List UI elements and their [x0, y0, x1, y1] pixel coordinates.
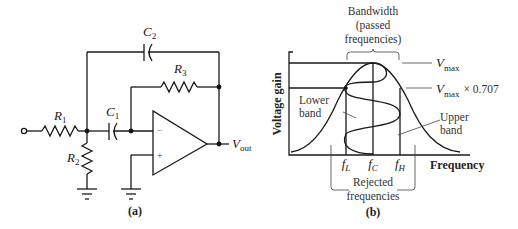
inverting-input-sign: −: [157, 125, 163, 136]
lower-band-leader: [343, 112, 356, 118]
rejected-label-1: Rejected: [353, 176, 393, 189]
output-node: [217, 142, 222, 147]
bandwidth-label-1: Bandwidth: [348, 5, 399, 17]
circuit-diagram: − + R1 R2 R3 C1 C2 Vout (a): [21, 24, 252, 218]
rejected-label-2: frequencies: [347, 190, 401, 203]
ground-icon: [77, 189, 97, 199]
r3-label: R3: [173, 61, 187, 78]
vmax707-label: Vmax× 0.707: [436, 81, 499, 99]
r1-label: R1: [53, 108, 66, 125]
junction-node: [217, 85, 222, 90]
y-axis-label: Voltage gain: [270, 72, 284, 136]
resistor-r2: [82, 143, 92, 174]
vout-label: Vout: [232, 136, 252, 153]
caption-b: (b): [366, 205, 381, 219]
frequency-response-graph: Bandwidth (passed frequencies) Vmax Vmax…: [270, 5, 499, 219]
upper-band-label-2: band: [440, 124, 463, 136]
c1-label: C1: [106, 104, 119, 121]
bandwidth-label-3: frequencies): [345, 33, 402, 46]
resistor-r1: [42, 126, 78, 136]
noninverting-input-sign: +: [157, 150, 163, 161]
upper-band-label-1: Upper: [440, 111, 469, 124]
bandwidth-brace: [347, 49, 399, 60]
input-terminal: [21, 128, 26, 133]
r2-label: R2: [66, 150, 79, 167]
fl-tick-label: fL: [342, 156, 351, 173]
x-axis-label: Frequency: [430, 158, 484, 172]
c2-label: C2: [143, 24, 156, 41]
lower-band-label-1: Lower: [299, 94, 329, 106]
bandpass-filter-figure: − + R1 R2 R3 C1 C2 Vout (a): [0, 0, 518, 229]
lower-band-label-2: band: [299, 107, 322, 119]
ground-icon: [121, 189, 141, 199]
resistor-r3: [161, 82, 197, 92]
fh-tick-label: fH: [395, 156, 406, 173]
fc-tick-label: fC: [368, 156, 379, 173]
op-amp-icon: [153, 111, 207, 175]
bandwidth-label-2: (passed: [356, 19, 391, 32]
caption-a: (a): [128, 204, 142, 218]
cutoff-point: [344, 86, 348, 90]
vmax-label: Vmax: [436, 55, 460, 73]
